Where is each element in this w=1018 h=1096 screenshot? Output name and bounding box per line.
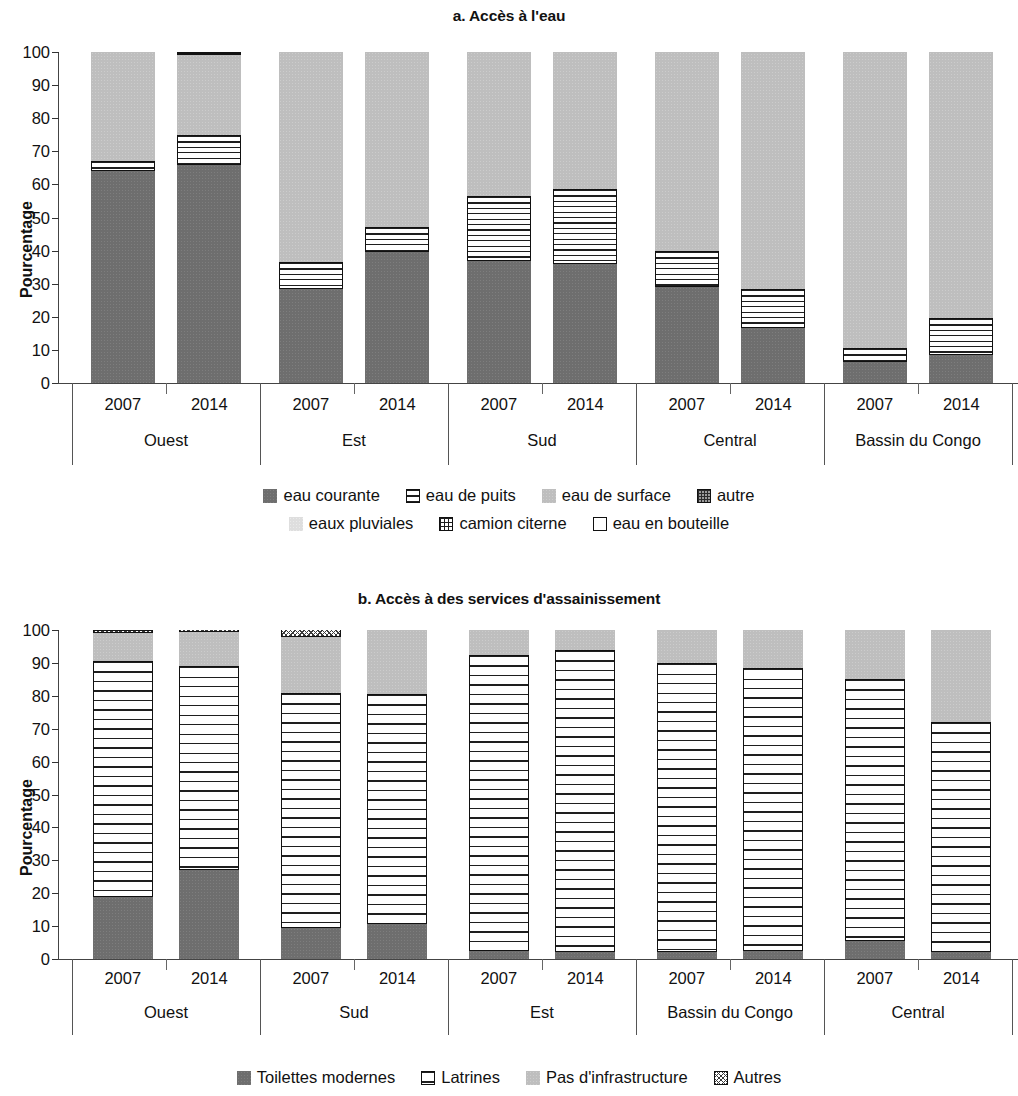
x-axis-region-label: Sud — [448, 431, 636, 450]
plot-area-water: Pourcentage 1009080706050403020100 Ouest… — [0, 26, 1018, 466]
legend-label: autre — [717, 486, 755, 505]
legend-item: Latrines — [421, 1068, 500, 1087]
x-axis-group-separator — [72, 383, 73, 465]
x-axis-region-label: Central — [636, 431, 824, 450]
x-axis-minor-tick — [354, 383, 355, 394]
panel-b-title: b. Accès à des services d'assainissement — [0, 578, 1018, 608]
x-axis-group-separator — [636, 959, 637, 1035]
legend-label: eau en bouteille — [613, 514, 730, 533]
x-axis-group-separator — [824, 383, 825, 465]
legend-item: Autres — [714, 1068, 782, 1087]
panel-sanitation-access: b. Accès à des services d'assainissement… — [0, 578, 1018, 1096]
x-axis-year-label: 2014 — [923, 395, 999, 414]
x-axis-minor-tick — [166, 383, 167, 394]
x-axis-group-separator — [824, 959, 825, 1035]
legend-item: eau courante — [263, 486, 379, 505]
x-axis-year-label: 2014 — [923, 969, 999, 988]
x-axis-minor-tick — [918, 383, 919, 394]
legend-item: camion citerne — [439, 514, 566, 533]
x-axis-year-label: 2007 — [837, 395, 913, 414]
legend-swatch-camion-icon — [439, 517, 453, 531]
x-axis-group-separator — [260, 383, 261, 465]
legend-water: eau couranteeau de puitseau de surfaceau… — [0, 486, 1018, 533]
legend-item: eau de puits — [406, 486, 516, 505]
x-axis-region-label: Bassin du Congo — [824, 431, 1012, 450]
x-axis-region-label: Bassin du Congo — [636, 1003, 824, 1022]
x-axis-year-label: 2007 — [461, 395, 537, 414]
x-axis-year-label: 2007 — [649, 395, 725, 414]
legend-item: eau de surface — [542, 486, 671, 505]
legend-item: autre — [697, 486, 755, 505]
x-axis-region-label: Central — [824, 1003, 1012, 1022]
x-axis-minor-tick — [542, 959, 543, 970]
x-axis-region-label: Ouest — [72, 431, 260, 450]
x-axis-year-label: 2007 — [273, 395, 349, 414]
x-axis-year-label: 2007 — [85, 969, 161, 988]
x-axis-year-label: 2014 — [735, 969, 811, 988]
x-axis-year-label: 2007 — [85, 395, 161, 414]
x-axis-minor-tick — [354, 959, 355, 970]
x-axis-group-separator — [1012, 383, 1013, 465]
legend-label: Latrines — [441, 1068, 500, 1087]
legend-row: eau couranteeau de puitseau de surfaceau… — [0, 486, 1018, 505]
x-axis-region-label: Est — [260, 431, 448, 450]
legend-sanitation: Toilettes modernesLatrinesPas d'infrastr… — [0, 1068, 1018, 1087]
legend-swatch-pluviales-icon — [289, 517, 303, 531]
x-axis-group-separator — [72, 959, 73, 1035]
x-axis-group-separator — [1012, 959, 1013, 1035]
legend-label: eau de surface — [562, 486, 671, 505]
panel-water-access: a. Accès à l'eau Pourcentage 10090807060… — [0, 0, 1018, 570]
legend-swatch-bouteille-icon — [593, 517, 607, 531]
legend-swatch-autres-icon — [714, 1071, 728, 1085]
x-axis-group-separator — [448, 383, 449, 465]
plot-area-sanitation: Pourcentage 1009080706050403020100 Ouest… — [0, 614, 1018, 1034]
x-axis-year-label: 2014 — [359, 395, 435, 414]
legend-item: eaux pluviales — [289, 514, 414, 533]
legend-item: Pas d'infrastructure — [526, 1068, 688, 1087]
legend-swatch-surface-icon — [542, 489, 556, 503]
x-axis-region-label: Ouest — [72, 1003, 260, 1022]
x-axis-minor-tick — [730, 959, 731, 970]
legend-label: Pas d'infrastructure — [546, 1068, 688, 1087]
legend-item: Toilettes modernes — [237, 1068, 396, 1087]
x-axis-group-separator — [448, 959, 449, 1035]
x-axis-group-separator — [636, 383, 637, 465]
legend-label: eaux pluviales — [309, 514, 414, 533]
legend-swatch-autre-icon — [697, 489, 711, 503]
x-axis-a: Ouest20072014Est20072014Sud20072014Centr… — [0, 26, 1018, 466]
x-axis-year-label: 2007 — [649, 969, 725, 988]
x-axis-year-label: 2014 — [547, 969, 623, 988]
x-axis-minor-tick — [730, 383, 731, 394]
x-axis-year-label: 2007 — [273, 969, 349, 988]
legend-label: camion citerne — [459, 514, 566, 533]
x-axis-year-label: 2014 — [171, 395, 247, 414]
legend-label: Autres — [734, 1068, 782, 1087]
x-axis-region-label: Sud — [260, 1003, 448, 1022]
legend-item: eau en bouteille — [593, 514, 730, 533]
legend-label: eau courante — [283, 486, 379, 505]
x-axis-year-label: 2014 — [359, 969, 435, 988]
legend-row: eaux pluvialescamion citerneeau en boute… — [0, 514, 1018, 533]
x-axis-year-label: 2007 — [837, 969, 913, 988]
legend-swatch-latrines-icon — [421, 1071, 435, 1085]
figure-water-sanitation-access: a. Accès à l'eau Pourcentage 10090807060… — [0, 0, 1018, 1096]
x-axis-line — [58, 959, 1018, 960]
legend-swatch-pasinfra-icon — [526, 1071, 540, 1085]
legend-swatch-moderne-icon — [237, 1071, 251, 1085]
x-axis-minor-tick — [166, 959, 167, 970]
x-axis-region-label: Est — [448, 1003, 636, 1022]
legend-label: eau de puits — [426, 486, 516, 505]
x-axis-b: Ouest20072014Sud20072014Est20072014Bassi… — [0, 614, 1018, 1034]
x-axis-line — [58, 383, 1018, 384]
legend-label: Toilettes modernes — [257, 1068, 396, 1087]
x-axis-year-label: 2014 — [547, 395, 623, 414]
panel-a-title: a. Accès à l'eau — [0, 0, 1018, 25]
x-axis-year-label: 2014 — [171, 969, 247, 988]
x-axis-year-label: 2014 — [735, 395, 811, 414]
legend-swatch-courante-icon — [263, 489, 277, 503]
x-axis-minor-tick — [542, 383, 543, 394]
x-axis-minor-tick — [918, 959, 919, 970]
x-axis-year-label: 2007 — [461, 969, 537, 988]
legend-swatch-puits-icon — [406, 489, 420, 503]
x-axis-group-separator — [260, 959, 261, 1035]
